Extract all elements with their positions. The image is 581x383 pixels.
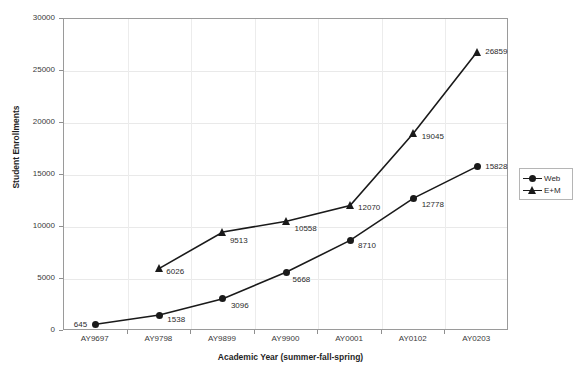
data-point-marker: [347, 237, 354, 244]
data-point-label: 19045: [422, 132, 444, 141]
legend-item-web[interactable]: Web: [522, 172, 570, 184]
x-tick-label: AY0203: [441, 334, 511, 343]
y-tick-label: 30000: [11, 13, 55, 22]
data-point-marker: [156, 312, 163, 319]
data-point-marker: [346, 201, 354, 209]
y-tick-label: 20000: [11, 117, 55, 126]
chart-figure: Student Enrollments 05000100001500020000…: [0, 0, 581, 383]
chart-legend: WebE+M: [519, 168, 573, 200]
data-point-label: 15828: [485, 162, 507, 171]
series-line-web: [96, 166, 477, 324]
data-point-label: 1538: [167, 315, 185, 324]
x-tick-label: AY0001: [314, 334, 384, 343]
y-tick-mark: [59, 330, 63, 331]
circle-marker-icon: [522, 173, 543, 183]
y-axis-title: Student Enrollments: [11, 67, 21, 227]
x-tick-label: AY9900: [251, 334, 321, 343]
data-point-marker: [474, 163, 481, 170]
x-tick-label: AY9798: [123, 334, 193, 343]
x-tick-label: AY9899: [187, 334, 257, 343]
data-point-label: 9513: [230, 236, 248, 245]
data-point-label: 8710: [358, 241, 376, 250]
y-tick-label: 25000: [11, 65, 55, 74]
data-point-label: 3096: [231, 301, 249, 310]
y-tick-label: 10000: [11, 221, 55, 230]
x-tick-mark: [254, 330, 255, 334]
data-point-label: 5668: [293, 275, 311, 284]
y-tick-label: 0: [11, 325, 55, 334]
plot-area: 6451538309656688710127781582860269513105…: [63, 18, 508, 330]
data-point-marker: [409, 129, 417, 137]
data-point-label: 645: [74, 320, 87, 329]
y-tick-label: 15000: [11, 169, 55, 178]
x-tick-label: AY9697: [60, 334, 130, 343]
legend-item-eplusm[interactable]: E+M: [522, 184, 570, 196]
data-point-marker: [283, 269, 290, 276]
data-point-marker: [410, 195, 417, 202]
data-point-marker: [473, 48, 481, 56]
legend-label: Web: [543, 174, 560, 183]
y-tick-label: 5000: [11, 273, 55, 282]
x-axis-title: Academic Year (summer-fall-spring): [0, 352, 581, 362]
x-tick-mark: [190, 330, 191, 334]
triangle-marker-icon: [522, 185, 543, 195]
data-point-marker: [155, 264, 163, 272]
data-point-label: 26859: [485, 47, 507, 56]
data-point-label: 6026: [166, 267, 184, 276]
x-tick-mark: [127, 330, 128, 334]
data-point-label: 10558: [295, 224, 317, 233]
x-tick-label: AY0102: [378, 334, 448, 343]
data-point-marker: [282, 217, 290, 225]
series-lines: [64, 19, 509, 331]
data-point-label: 12778: [422, 200, 444, 209]
data-point-marker: [218, 228, 226, 236]
data-point-label: 12070: [358, 203, 380, 212]
legend-label: E+M: [543, 186, 561, 195]
x-tick-mark: [381, 330, 382, 334]
x-tick-mark: [317, 330, 318, 334]
x-tick-mark: [444, 330, 445, 334]
series-line-eplusm: [159, 52, 477, 269]
